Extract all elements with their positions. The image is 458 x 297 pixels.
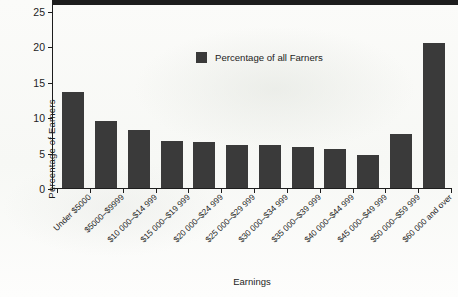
bar-slot (286, 11, 319, 188)
bar (161, 141, 183, 188)
bar-slot (254, 11, 287, 188)
bar-slot (155, 11, 188, 188)
bar-slot (90, 11, 123, 188)
bar (292, 147, 314, 188)
bar (226, 145, 248, 188)
bar-slot (352, 11, 385, 188)
plot-area (53, 11, 452, 188)
bar-slot (417, 11, 450, 188)
chart-figure: Percentage of Earners 0510152025 Under $… (0, 0, 458, 297)
bar (259, 145, 281, 188)
legend-label-percentage-of-all-earners: Percentage of all Farners (215, 52, 323, 63)
y-tick-label: 5 (39, 148, 45, 160)
bar (390, 134, 412, 188)
y-tick-label: 25 (33, 6, 45, 18)
bar-slot (221, 11, 254, 188)
bar (423, 43, 445, 188)
plot-frame: 0510152025 (52, 5, 452, 189)
bar (128, 130, 150, 188)
bar (357, 155, 379, 188)
x-axis-tick-labels: Under $5000$5000–$9999$10 000–$14 999$15… (52, 192, 452, 268)
bar (193, 142, 215, 188)
bar-slot (319, 11, 352, 188)
bar-slot (385, 11, 418, 188)
bar-slot (188, 11, 221, 188)
y-tick-label: 15 (33, 77, 45, 89)
y-tick-mark (48, 189, 53, 190)
legend: Percentage of all Farners (196, 52, 323, 63)
bar (62, 92, 84, 188)
y-tick-label: 20 (33, 41, 45, 53)
bar-slot (123, 11, 156, 188)
bar (95, 121, 117, 188)
legend-swatch-percentage-of-all-earners (196, 52, 207, 63)
bar (324, 149, 346, 188)
y-tick-label: 10 (33, 112, 45, 124)
y-tick-label: 0 (39, 183, 45, 195)
x-axis-title: Earnings (52, 276, 452, 287)
bar-slot (57, 11, 90, 188)
